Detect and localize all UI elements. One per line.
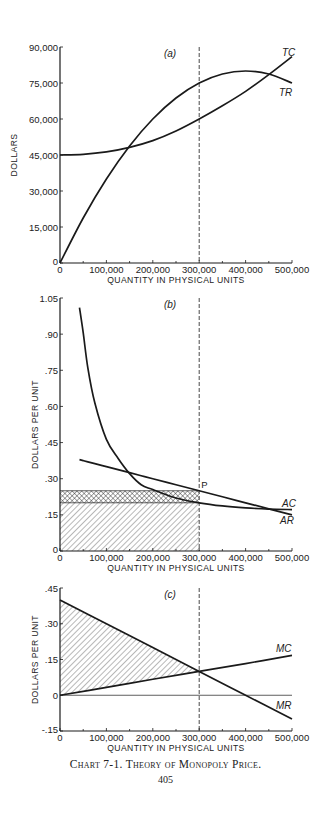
- curve-ac: [79, 308, 292, 510]
- x-tick-label: 200,000: [136, 732, 170, 743]
- panel-label: (c): [164, 589, 176, 600]
- x-tick-label: 0: [57, 732, 62, 743]
- x-tick-label: 300,000: [182, 732, 216, 743]
- curve-label-mr: MR: [276, 700, 292, 711]
- x-axis-title: QUANTITY IN PHYSICAL UNITS: [107, 563, 244, 573]
- x-tick-label: 500,000: [275, 732, 309, 743]
- x-tick-label: 400,000: [228, 552, 262, 563]
- x-tick-label: 0: [57, 264, 62, 275]
- y-tick-label: 15,000: [29, 222, 58, 233]
- curve-label-mc: MC: [276, 643, 292, 654]
- y-tick-label: 75,000: [29, 78, 58, 89]
- y-tick-label: .90: [45, 329, 58, 340]
- point-label-p: P: [201, 479, 207, 490]
- y-tick-label: .30: [45, 473, 58, 484]
- x-tick-label: 100,000: [89, 552, 123, 563]
- y-tick-label: 60,000: [29, 114, 58, 125]
- panel-a-total-chart: 0100,000200,000300,000400,000500,000QUAN…: [9, 42, 309, 286]
- y-tick-label: 30,000: [29, 186, 58, 197]
- panel-label: (b): [164, 299, 176, 310]
- y-axis-title: DOLLARS PER UNIT: [30, 380, 40, 469]
- chart-caption: Chart 7-1. Theory of Monopoly Price.: [0, 758, 331, 770]
- x-tick-label: 400,000: [228, 264, 262, 275]
- cost-area: [60, 503, 199, 551]
- curve-label-tc: TC: [282, 47, 296, 58]
- monopoly-price-chart: 0100,000200,000300,000400,000500,000QUAN…: [0, 0, 331, 824]
- curve-label-ac: AC: [281, 498, 297, 509]
- y-tick-label: 1.05: [40, 293, 59, 304]
- x-tick-label: 300,000: [182, 552, 216, 563]
- y-axis-title: DOLLARS: [9, 134, 19, 177]
- y-tick-label: .30: [45, 618, 58, 629]
- y-tick-label: 0: [53, 690, 58, 701]
- panel-c-marginal-chart: 0100,000200,000300,000400,000500,000QUAN…: [30, 583, 309, 754]
- x-tick-label: 200,000: [136, 264, 170, 275]
- panel-b-average-chart: 0100,000200,000300,000400,000500,000QUAN…: [30, 293, 309, 574]
- y-tick-label: -.15: [42, 724, 58, 735]
- curve-label-ar: AR: [279, 515, 294, 526]
- y-tick-label: 90,000: [29, 42, 58, 53]
- panel-label: (a): [164, 48, 176, 59]
- x-tick-label: 500,000: [275, 264, 309, 275]
- y-tick-label: .45: [45, 583, 58, 594]
- x-axis-title: QUANTITY IN PHYSICAL UNITS: [107, 743, 244, 753]
- x-tick-label: 100,000: [89, 732, 123, 743]
- curve-label-tr: TR: [279, 87, 292, 98]
- profit-area: [60, 491, 199, 503]
- x-tick-label: 100,000: [89, 264, 123, 275]
- surplus-area: [60, 600, 199, 695]
- x-axis-title: QUANTITY IN PHYSICAL UNITS: [107, 275, 244, 285]
- y-tick-label: .60: [45, 401, 58, 412]
- y-tick-label: 0: [53, 256, 58, 267]
- x-tick-label: 200,000: [136, 552, 170, 563]
- y-tick-label: .15: [45, 509, 58, 520]
- y-tick-label: .75: [45, 365, 58, 376]
- x-tick-label: 400,000: [228, 732, 262, 743]
- curve-tr: [60, 71, 292, 263]
- x-tick-label: 300,000: [182, 264, 216, 275]
- y-tick-label: .15: [45, 654, 58, 665]
- page-number: 405: [0, 774, 331, 785]
- y-axis-title: DOLLARS PER UNIT: [30, 615, 40, 704]
- x-tick-label: 0: [57, 552, 62, 563]
- x-tick-label: 500,000: [275, 552, 309, 563]
- y-tick-label: 45,000: [29, 150, 58, 161]
- y-tick-label: .45: [45, 437, 58, 448]
- y-tick-label: 0: [53, 544, 58, 555]
